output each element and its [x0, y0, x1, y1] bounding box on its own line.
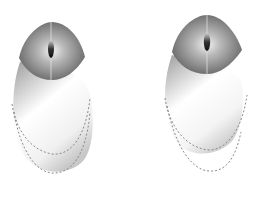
mouse-left [0, 0, 129, 203]
mouse-right [129, 0, 258, 203]
scroll-wheel-icon [48, 40, 54, 58]
mouse-left-illustration [0, 0, 129, 203]
mouse-right-illustration [129, 0, 258, 203]
scroll-wheel-icon [204, 33, 210, 51]
